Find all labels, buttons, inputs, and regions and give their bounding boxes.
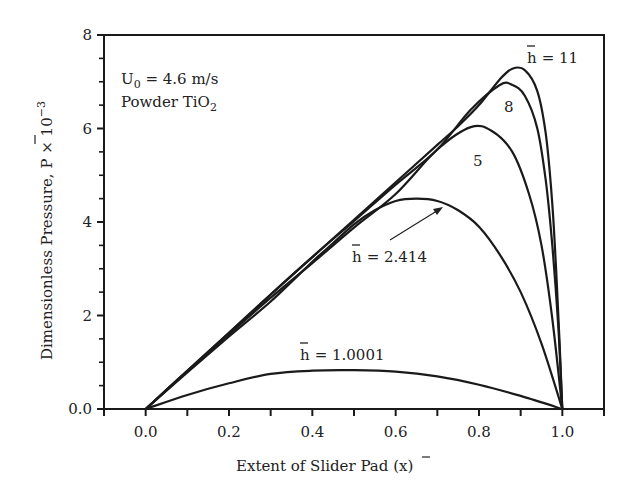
svg-text:Dimensionless Pressure, P × 10: Dimensionless Pressure, P × 10−3 [35, 101, 56, 360]
curve-series [146, 370, 563, 409]
x-tick-label: 0.6 [384, 423, 408, 441]
curve-series [146, 126, 563, 409]
x-tick-label: 0.4 [300, 423, 324, 441]
y-tick-label: 2 [82, 307, 92, 325]
velocity-annotation: U0 = 4.6 m/s [121, 70, 218, 91]
label-h-11: h= 11 [527, 46, 578, 67]
chart-canvas: 0.00.20.40.60.81.00.02468 U0 = 4.6 m/s P… [0, 0, 640, 497]
y-tick-label: 0.0 [68, 400, 92, 418]
y-axis-label: Dimensionless Pressure, P × 10−3 [35, 101, 56, 360]
curve-series [146, 199, 563, 409]
label-h-8: 8 [504, 98, 514, 116]
material-annotation: Powder TiO2 [121, 93, 217, 114]
y-tick-label: 8 [82, 26, 92, 44]
svg-text:h= 11: h= 11 [527, 49, 578, 67]
x-tick-label: 1.0 [550, 423, 574, 441]
axis-tick-labels: 0.00.20.40.60.81.00.02468 [68, 26, 574, 441]
arrow-icon [390, 207, 443, 240]
svg-text:Extent of Slider Pad (x): Extent of Slider Pad (x) [236, 457, 413, 475]
label-h-10001: h= 1.0001 [300, 343, 385, 364]
x-tick-label: 0.2 [217, 423, 241, 441]
svg-text:h= 1.0001: h= 1.0001 [300, 346, 385, 364]
y-tick-label: 4 [82, 213, 92, 231]
svg-text:h= 2.414: h= 2.414 [352, 248, 427, 266]
label-h-5: 5 [473, 152, 483, 170]
x-axis-label: Extent of Slider Pad (x) [236, 457, 430, 475]
label-h-2414: h= 2.414 [352, 245, 427, 266]
x-tick-label: 0.8 [467, 423, 491, 441]
x-tick-label: 0.0 [134, 423, 158, 441]
y-tick-label: 6 [82, 120, 92, 138]
